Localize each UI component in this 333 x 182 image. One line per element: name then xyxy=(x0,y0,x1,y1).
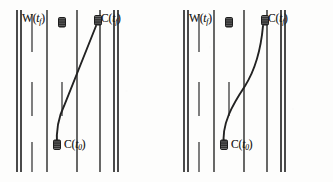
vehicle-W-tf xyxy=(59,18,66,28)
label-c-t0-paren-close: ) xyxy=(249,138,253,150)
label-c-t0-sub: 0 xyxy=(245,143,249,152)
label-c-t0: C(t0) xyxy=(64,139,85,151)
left-panel: W(tf) C(tf) C(t0) xyxy=(0,0,166,182)
vehicle-W-tf xyxy=(226,18,233,28)
label-w-tf: W(tf) xyxy=(22,13,45,25)
label-c-t0-sub: 0 xyxy=(78,143,82,152)
label-c-tf: C(tf) xyxy=(101,13,121,25)
label-w-tf-paren-close: ) xyxy=(208,12,212,24)
label-w-tf-sub: f xyxy=(39,17,41,26)
right-panel-scene xyxy=(167,0,333,182)
label-c-tf: C(tf) xyxy=(268,13,288,25)
figure-root: W(tf) C(tf) C(t0) xyxy=(0,0,333,182)
label-w-tf-base: W xyxy=(189,12,200,24)
label-c-tf-sub: f xyxy=(115,17,117,26)
label-w-tf-sub: f xyxy=(206,17,208,26)
left-panel-scene xyxy=(0,0,166,182)
label-w-tf: W(tf) xyxy=(189,13,212,25)
vehicle-C-t0 xyxy=(221,140,228,150)
label-c-tf-sub: f xyxy=(282,17,284,26)
right-panel: W(tf) C(tf) C(t0) xyxy=(167,0,333,182)
vehicle-C-t0 xyxy=(54,140,61,150)
label-c-tf-paren-close: ) xyxy=(117,12,121,24)
label-c-t0: C(t0) xyxy=(231,139,252,151)
label-c-tf-paren-close: ) xyxy=(284,12,288,24)
label-w-tf-base: W xyxy=(22,12,33,24)
label-c-t0-paren-close: ) xyxy=(82,138,86,150)
label-w-tf-paren-close: ) xyxy=(41,12,45,24)
